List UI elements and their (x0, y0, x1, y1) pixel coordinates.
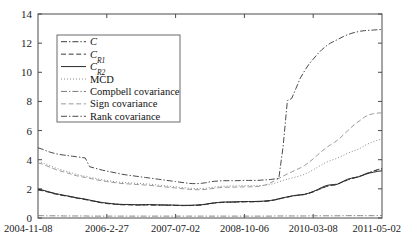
y-tick-label: 14 (21, 8, 33, 20)
y-tick-label: 8 (27, 95, 33, 107)
legend-label: C (90, 36, 98, 47)
series-line-5 (38, 113, 382, 190)
x-tick-label: 2008-10-06 (220, 223, 269, 234)
x-tick-label: 2011-05-02 (352, 223, 401, 234)
legend-label: Sign covariance (90, 98, 158, 109)
legend-label: MCD (90, 74, 114, 85)
y-tick-label: 2 (27, 183, 33, 195)
legend-label: Compbell covariance (90, 86, 180, 97)
series-line-2 (38, 171, 382, 206)
y-tick-label: 6 (27, 125, 33, 137)
figure-container: 024681012142004-11-082006-2-272007-07-02… (0, 0, 403, 248)
y-tick-label: 12 (21, 37, 32, 49)
x-tick-label: 2006-2-27 (85, 223, 129, 234)
line-chart: 024681012142004-11-082006-2-272007-07-02… (0, 0, 403, 248)
y-tick-label: 10 (21, 66, 33, 78)
x-tick-label: 2004-11-08 (4, 223, 53, 234)
series-line-3 (38, 139, 382, 189)
y-tick-label: 4 (27, 154, 33, 166)
series-line-4 (38, 216, 382, 217)
legend-label: Rank covariance (90, 111, 161, 122)
legend: CCR1CR2MCDCompbell covarianceSign covari… (57, 35, 180, 122)
x-tick-label: 2007-07-02 (151, 223, 200, 234)
x-tick-label: 2010-03-08 (289, 223, 338, 234)
